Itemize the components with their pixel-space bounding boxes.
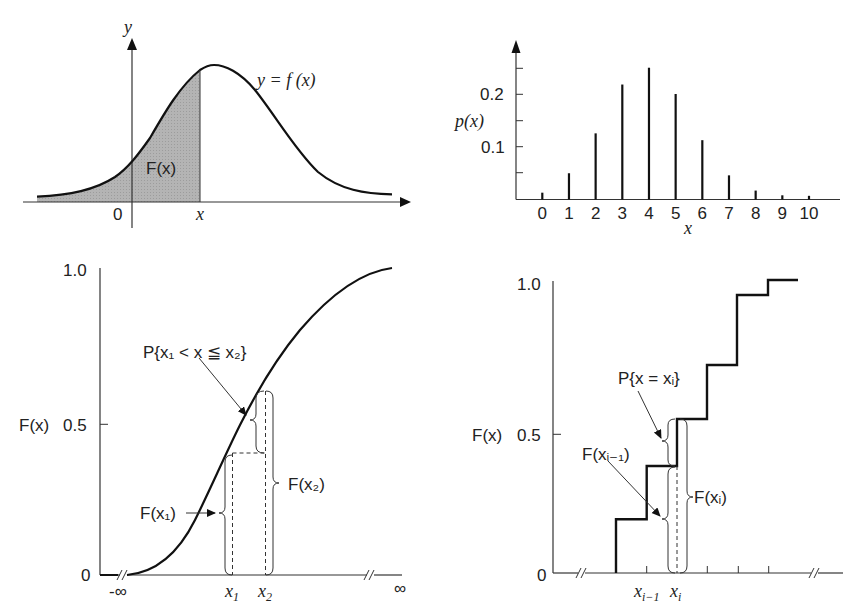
pmf-x-tick-label: 7 [724, 204, 733, 223]
pmf-panel: 012345678910 0.2 0.1 p(x) x [453, 40, 840, 238]
dcdf-y-tick-zero: 0 [537, 566, 546, 585]
pmf-x-tick-label: 2 [591, 204, 600, 223]
fxi-annotation: F(xᵢ) [694, 488, 727, 507]
pmf-y-label: p(x) [453, 111, 484, 132]
pmf-x-tick-label: 1 [564, 204, 573, 223]
prob-annotation: P{x₁ < x ≦ x₂} [143, 343, 247, 362]
x2-label: x2 [257, 581, 272, 604]
step-function [616, 280, 798, 573]
figure-stage: y y = f (x) F(x) 0 x 012345678910 0.2 0.… [0, 0, 858, 616]
fx2-brace [266, 391, 279, 575]
pmf-x-tick-label: 5 [671, 204, 680, 223]
pmf-x-tick-label: 3 [618, 204, 627, 223]
x-marker-label: x [195, 204, 204, 224]
x-axis-arrow-icon [400, 197, 411, 207]
pmf-x-tick-label: 6 [698, 204, 707, 223]
area-label: F(x) [146, 159, 176, 178]
pmf-x-tick-label: 8 [751, 204, 760, 223]
dcdf-y-label: F(x) [472, 426, 502, 445]
fx2-annotation: F(x₂) [288, 475, 325, 494]
pmf-bars [542, 68, 809, 200]
cdf-continuous-panel: 1.0 0.5 0 F(x) -∞ ∞ x1 x2 P{x₁ < x ≦ x₂}… [19, 261, 406, 604]
x1-label: x1 [224, 581, 239, 604]
fxi-minus-annotation: F(xᵢ₋₁) [582, 445, 630, 464]
y-axis-arrow-icon [127, 38, 137, 50]
figure-canvas: y y = f (x) F(x) 0 x 012345678910 0.2 0.… [0, 0, 858, 616]
pmf-x-tick-label: 0 [538, 204, 547, 223]
neg-infinity-label: -∞ [109, 582, 127, 601]
fxi-brace [680, 419, 693, 573]
dcdf-y-tick-half: 0.5 [517, 426, 541, 445]
cumulative-area-shade [37, 70, 200, 202]
xi-minus-label: xi−1 [633, 581, 659, 604]
cdf-y-tick-zero: 0 [81, 566, 90, 585]
pmf-y-axis-arrow-icon [512, 40, 521, 53]
fxi-minus-brace [662, 467, 675, 573]
pmf-x-tick-label: 9 [778, 204, 787, 223]
cdf-curve [100, 268, 392, 575]
dcdf-x-ticks [647, 566, 769, 573]
fx1-annotation: F(x₁) [140, 504, 176, 523]
xi-label: xi [669, 581, 681, 604]
density-curve [37, 65, 392, 197]
curve-label: y = f (x) [255, 70, 316, 91]
origin-label: 0 [113, 205, 122, 224]
fxi-minus-arrow [608, 461, 660, 516]
prob-arrow [638, 391, 661, 438]
cdf-y-label: F(x) [19, 416, 49, 435]
pmf-x-label: x [683, 218, 692, 238]
dcdf-y-tick-one: 1.0 [517, 275, 541, 294]
pos-infinity-label: ∞ [394, 579, 406, 598]
pmf-y-tick-0.1: 0.1 [481, 138, 505, 157]
pdf-panel: y y = f (x) F(x) 0 x [23, 17, 411, 228]
prob-brace [662, 419, 675, 466]
pdf-y-label: y [122, 17, 132, 37]
pmf-x-tick-label: 10 [800, 204, 819, 223]
cdf-discrete-panel: 1.0 0.5 0 F(x) P{x = xᵢ} F(xᵢ₋₁) F(xᵢ) x… [472, 275, 843, 604]
pmf-y-ticks [516, 68, 523, 172]
cdf-y-tick-one: 1.0 [63, 261, 87, 280]
prob-arrow [199, 358, 246, 415]
pmf-y-tick-0.2: 0.2 [480, 85, 504, 104]
cdf-y-tick-half: 0.5 [63, 416, 87, 435]
pmf-x-tick-label: 4 [644, 204, 653, 223]
prob-annotation: P{x = xᵢ} [618, 369, 680, 388]
pmf-x-tick-labels: 012345678910 [538, 204, 819, 223]
fx1-brace [219, 455, 232, 575]
